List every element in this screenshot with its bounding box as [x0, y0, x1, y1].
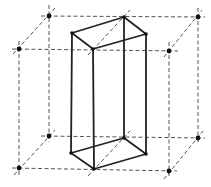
- prism-vertex-dot: [92, 167, 96, 171]
- lattice-node-back-bottom-right: [196, 136, 201, 141]
- prism-vertex-dot: [122, 136, 126, 140]
- prism-edge-left: [71, 33, 72, 153]
- unit-cell-diagram: [0, 0, 211, 187]
- prism-vertex-dot: [69, 151, 73, 155]
- lattice-node-front-bottom-right: [167, 169, 172, 174]
- prism-bottom-face: [71, 138, 146, 169]
- lattice-node-back-top-left: [47, 14, 52, 19]
- lattice-node-back-top-right: [196, 15, 201, 20]
- rectangular-prism: [69, 15, 148, 171]
- prism-edge-front: [93, 49, 94, 169]
- lattice-node-back-bottom-left: [47, 134, 52, 139]
- prism-vertex-dot: [144, 32, 148, 36]
- lattice-dashed-lines: [12, 5, 205, 179]
- lattice-node-front-top-left: [17, 47, 22, 52]
- prism-vertex-dot: [70, 31, 74, 35]
- prism-vertex-dot: [144, 152, 148, 156]
- lattice-nodes: [17, 14, 201, 174]
- prism-vertex-dot: [122, 15, 126, 19]
- lattice-node-front-top-right: [167, 49, 172, 54]
- prism-top-face: [72, 17, 146, 49]
- lattice-node-front-bottom-left: [17, 166, 22, 171]
- prism-vertex-dot: [91, 47, 95, 51]
